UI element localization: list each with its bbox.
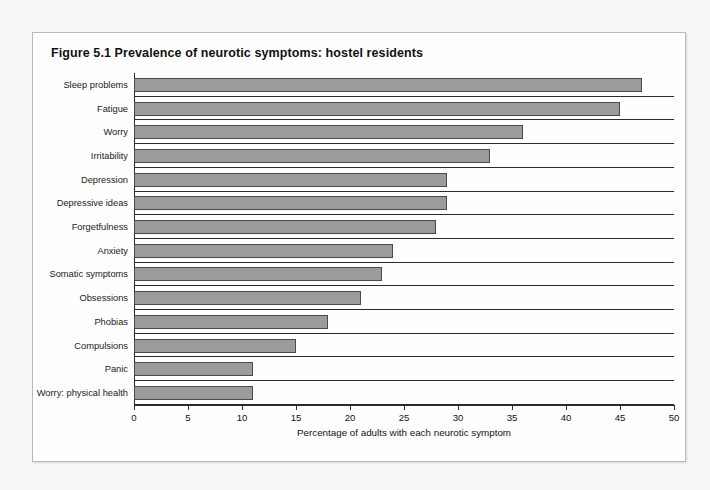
bar xyxy=(134,125,523,139)
x-tick-label: 0 xyxy=(131,412,136,423)
bar xyxy=(134,362,253,376)
bar xyxy=(134,291,361,305)
x-tick-label: 25 xyxy=(399,412,410,423)
bar xyxy=(134,149,490,163)
category-label: Anxiety xyxy=(98,246,129,256)
bar xyxy=(134,267,382,281)
bar xyxy=(134,220,436,234)
x-tick-label: 35 xyxy=(507,412,518,423)
x-tick-mark xyxy=(134,405,135,410)
bar-row: Anxiety xyxy=(134,239,674,263)
x-tick-label: 20 xyxy=(345,412,356,423)
plot-area: Sleep problemsFatigueWorryIrritabilityDe… xyxy=(134,73,674,405)
x-tick-label: 15 xyxy=(291,412,302,423)
x-tick-label: 30 xyxy=(453,412,464,423)
category-label: Worry xyxy=(103,127,128,137)
category-label: Obsessions xyxy=(79,293,128,303)
bar-row: Forgetfulness xyxy=(134,215,674,239)
bar-row: Compulsions xyxy=(134,334,674,358)
bar xyxy=(134,315,328,329)
category-label: Forgetfulness xyxy=(72,222,128,232)
bar-row: Depression xyxy=(134,168,674,192)
bar-row: Worry xyxy=(134,120,674,144)
x-axis-line: 05101520253035404550 xyxy=(134,405,674,406)
x-tick-mark xyxy=(512,405,513,410)
x-tick-mark xyxy=(674,405,675,410)
bar xyxy=(134,196,447,210)
figure-panel: Figure 5.1 Prevalence of neurotic sympto… xyxy=(32,32,686,462)
category-label: Panic xyxy=(105,364,128,374)
bar xyxy=(134,173,447,187)
x-tick-mark xyxy=(242,405,243,410)
x-tick-label: 45 xyxy=(615,412,626,423)
bar-row: Irritability xyxy=(134,144,674,168)
x-tick-mark xyxy=(458,405,459,410)
category-label: Irritability xyxy=(91,151,128,161)
bar xyxy=(134,339,296,353)
bar-row: Obsessions xyxy=(134,286,674,310)
bar xyxy=(134,386,253,400)
bar-row: Sleep problems xyxy=(134,73,674,97)
category-label: Phobias xyxy=(94,317,128,327)
category-label: Depressive ideas xyxy=(57,198,128,208)
x-tick-mark xyxy=(296,405,297,410)
bar xyxy=(134,102,620,116)
bar-row: Somatic symptoms xyxy=(134,263,674,287)
bar-row: Worry: physical health xyxy=(134,381,674,405)
x-tick-label: 40 xyxy=(561,412,572,423)
bar xyxy=(134,244,393,258)
category-label: Somatic symptoms xyxy=(49,269,128,279)
x-axis-title: Percentage of adults with each neurotic … xyxy=(134,427,674,438)
x-tick-label: 10 xyxy=(237,412,248,423)
category-label: Worry: physical health xyxy=(37,388,128,398)
x-tick-mark xyxy=(620,405,621,410)
x-tick-mark xyxy=(350,405,351,410)
bar xyxy=(134,78,642,92)
bar-row: Depressive ideas xyxy=(134,192,674,216)
x-tick-mark xyxy=(566,405,567,410)
bar-rows: Sleep problemsFatigueWorryIrritabilityDe… xyxy=(134,73,674,405)
x-tick-label: 5 xyxy=(185,412,190,423)
bar-row: Phobias xyxy=(134,310,674,334)
x-tick-mark xyxy=(188,405,189,410)
category-label: Compulsions xyxy=(74,341,128,351)
x-tick-mark xyxy=(404,405,405,410)
category-label: Fatigue xyxy=(97,104,128,114)
bar-row: Fatigue xyxy=(134,97,674,121)
category-label: Depression xyxy=(81,175,128,185)
category-label: Sleep problems xyxy=(63,80,128,90)
figure-title: Figure 5.1 Prevalence of neurotic sympto… xyxy=(51,46,423,60)
bar-row: Panic xyxy=(134,357,674,381)
x-tick-label: 50 xyxy=(669,412,680,423)
